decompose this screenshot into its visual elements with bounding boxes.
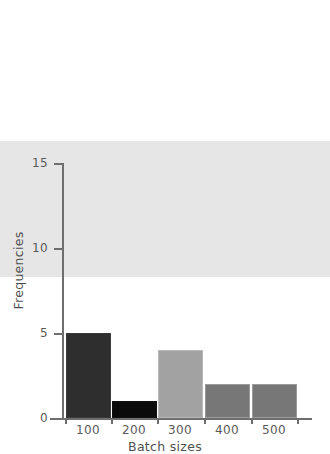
y-tick-mark-10 — [54, 248, 63, 250]
bar-300 — [158, 350, 203, 418]
y-tick-label-10: 10 — [8, 242, 48, 254]
x-tick-label-500: 500 — [251, 424, 297, 436]
x-tick-mark-end — [297, 418, 299, 424]
x-tick-label-100: 100 — [65, 424, 111, 436]
bar-chart: Frequencies 15 10 5 0 100 200 300 400 50… — [0, 141, 330, 277]
y-tick-label-0: 0 — [8, 412, 48, 424]
x-axis-line — [50, 418, 312, 420]
x-tick-label-200: 200 — [111, 424, 157, 436]
x-tick-label-400: 400 — [204, 424, 250, 436]
bar-500 — [252, 384, 297, 418]
y-tick-mark-5 — [54, 333, 63, 335]
y-axis-title: Frequencies — [11, 211, 26, 331]
x-tick-label-300: 300 — [157, 424, 203, 436]
y-axis-line — [62, 163, 64, 419]
bar-400 — [205, 384, 250, 418]
x-axis-title: Batch sizes — [0, 439, 330, 454]
y-tick-label-5: 5 — [8, 327, 48, 339]
y-tick-mark-15 — [54, 163, 63, 165]
bar-100 — [66, 333, 111, 418]
bar-200 — [112, 401, 157, 418]
y-tick-label-15: 15 — [8, 157, 48, 169]
